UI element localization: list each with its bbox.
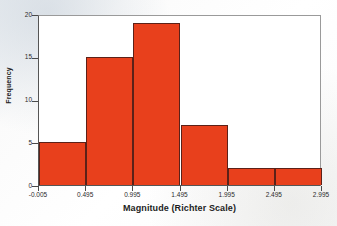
x-axis-tick-label: 2.995	[301, 192, 337, 199]
histogram-bar	[228, 168, 275, 185]
y-axis-tick	[32, 58, 38, 59]
histogram-bar	[181, 125, 228, 185]
y-axis-tick-label: 5	[8, 140, 32, 147]
x-axis-tick-label: 1.995	[207, 192, 247, 199]
y-axis-tick	[32, 15, 38, 16]
y-axis-tick-label: 10	[8, 97, 32, 104]
y-axis-tick	[32, 101, 38, 102]
y-axis-tick-label: 20	[8, 12, 32, 19]
y-axis-tick	[32, 143, 38, 144]
x-axis-tick-label: 1.495	[160, 192, 200, 199]
histogram-bar	[133, 23, 180, 185]
histogram-bars-group	[39, 16, 320, 185]
x-axis-title: Magnitude (Richter Scale)	[38, 203, 321, 213]
x-axis-tick-label: 2.495	[254, 192, 294, 199]
y-axis-tick-label: 15	[8, 54, 32, 61]
plot-area-frame	[38, 15, 321, 186]
histogram-bar	[86, 57, 133, 185]
histogram-bar	[39, 142, 86, 185]
x-axis-tick-label: 0.495	[65, 192, 105, 199]
histogram-bar	[275, 168, 322, 185]
y-axis-title: Frequency	[5, 56, 12, 116]
y-axis-tick-label: 0	[8, 183, 32, 190]
x-axis-tick-label: 0.995	[112, 192, 152, 199]
x-axis-tick-label: -0.005	[18, 192, 58, 199]
histogram-figure: 05101520 -0.0050.4950.9951.4951.9952.495…	[0, 0, 337, 226]
